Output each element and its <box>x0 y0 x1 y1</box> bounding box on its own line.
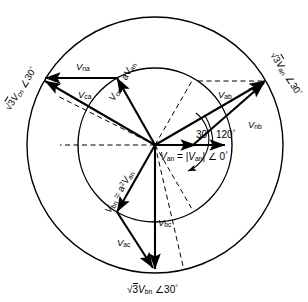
label-v-an-equation: Van = |Van| ∠ 0° <box>160 152 228 163</box>
label-v-ac: Vac <box>117 238 131 249</box>
phasor-diagram: Vna Vca Vab Vnb Vbc Vac Van = |Van| ∠ 0°… <box>0 0 308 302</box>
label-angle-30: 30° <box>196 130 210 140</box>
label-v-ca: Vca <box>78 90 92 101</box>
label-v-na: Vna <box>76 62 90 73</box>
label-outer-bottom: √3Vbn ∠30° <box>127 285 178 296</box>
label-v-nb: Vnb <box>248 120 262 131</box>
label-angle-120: 120° <box>216 130 235 140</box>
label-v-ab: Vab <box>218 90 232 101</box>
phasor-svg <box>0 0 308 302</box>
label-v-bc: Vbc <box>158 218 172 229</box>
